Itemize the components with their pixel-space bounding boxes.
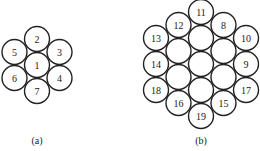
wire-label: 15 — [219, 98, 229, 109]
wire-circle-inner — [166, 39, 191, 64]
wire-circle-inner — [189, 78, 214, 103]
diagram-a-strand-7: 1234567 — [2, 27, 72, 104]
wire-label: 9 — [244, 59, 249, 70]
diagram-canvas: 1234567 1119121681513141810917 (a) (b) — [0, 0, 260, 151]
wire-label: 18 — [151, 85, 161, 96]
wire-label: 16 — [174, 98, 184, 109]
diagram-b-strand-19: 1119121681513141810917 — [144, 0, 259, 129]
wire-label: 14 — [151, 59, 161, 70]
caption-b: (b) — [195, 135, 207, 147]
wire-circle-inner — [166, 65, 191, 90]
wire-label: 19 — [196, 111, 206, 122]
wire-label: 1 — [35, 60, 40, 71]
wire-label: 5 — [12, 47, 17, 58]
wire-circle-inner — [189, 26, 214, 51]
wire-label: 4 — [57, 73, 62, 84]
wire-label: 8 — [221, 20, 226, 31]
wire-circle-inner — [211, 65, 236, 90]
wire-label: 2 — [35, 34, 40, 45]
wire-label: 11 — [196, 7, 206, 18]
wire-label: 13 — [151, 33, 161, 44]
wire-label: 17 — [241, 85, 251, 96]
wire-label: 12 — [174, 20, 184, 31]
wire-circle-inner — [189, 52, 214, 77]
wire-label: 7 — [35, 86, 40, 97]
wire-label: 10 — [241, 33, 251, 44]
wire-circle-inner — [211, 39, 236, 64]
wire-label: 3 — [57, 47, 62, 58]
wire-label: 6 — [12, 73, 17, 84]
caption-a: (a) — [31, 135, 42, 147]
